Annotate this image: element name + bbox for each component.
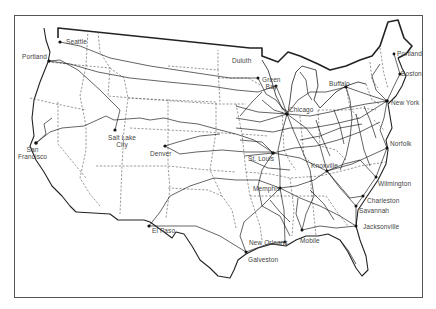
city-label-boston: Boston xyxy=(401,70,422,77)
city-label-charleston: Charleston xyxy=(367,197,399,204)
city-label-memphis: Memphis xyxy=(253,185,280,192)
city-label-salt-lake-city: Salt Lake City xyxy=(108,134,136,148)
city-label-galveston: Galveston xyxy=(248,256,278,263)
city-label-san-francisco: San Francisco xyxy=(18,146,47,160)
city-label-denver: Denver xyxy=(150,150,172,157)
city-label-wilmington: Wilmington xyxy=(378,180,411,187)
city-label-portland-me: Portland xyxy=(397,50,422,57)
city-label-norfolk: Norfolk xyxy=(390,140,411,147)
map-frame xyxy=(14,15,423,298)
city-label-buffalo: Buffalo xyxy=(329,80,350,87)
city-label-st-louis: St. Louis xyxy=(248,155,274,162)
city-label-portland-or: Portland xyxy=(22,53,47,60)
city-label-knoxville: Knoxville xyxy=(311,162,338,169)
city-label-savannah: Savannah xyxy=(359,207,389,214)
city-label-jacksonville: Jacksonville xyxy=(363,223,399,230)
city-label-el-paso: El Paso xyxy=(152,227,175,234)
city-label-seattle: Seattle xyxy=(66,38,87,45)
city-label-green-bay: Green Bay xyxy=(262,76,281,90)
city-label-mobile: Mobile xyxy=(300,237,320,244)
city-label-new-orleans: New Orleans xyxy=(249,239,288,246)
city-label-new-york: New York xyxy=(391,99,419,106)
city-label-duluth: Duluth xyxy=(232,57,251,64)
city-label-chicago: Chicago xyxy=(289,106,314,113)
